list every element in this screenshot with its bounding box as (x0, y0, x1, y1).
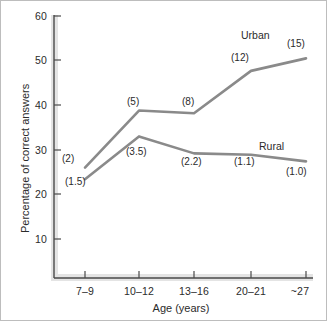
chart-plot-area (1, 1, 327, 321)
annotation-rural-4: (1.0) (286, 166, 307, 177)
y-tick-label-60: 60 (25, 10, 47, 22)
annotation-rural-3: (1.1) (234, 156, 255, 167)
annotation-urban-2: (8) (182, 96, 194, 107)
x-tick-label-27: ~27 (279, 285, 321, 297)
annotation-urban-4: (15) (287, 38, 305, 49)
annotation-urban-0: (2) (62, 153, 74, 164)
series-label-urban: Urban (241, 29, 270, 41)
annotation-rural-1: (3.5) (126, 146, 147, 157)
x-tick-label-20-21: 20–21 (223, 285, 279, 297)
annotation-urban-3: (12) (231, 52, 249, 63)
x-axis-title: Age (years) (111, 302, 251, 314)
x-tick-label-7-9: 7–9 (57, 285, 113, 297)
chart-figure: 60 50 40 30 20 10 7–9 10–12 13–16 20–21 … (0, 0, 327, 321)
y-tick-label-10: 10 (25, 233, 47, 245)
annotation-rural-0: (1.5) (65, 176, 86, 187)
y-axis-title: Percentage of correct answers (19, 84, 31, 233)
y-tick-label-50: 50 (25, 54, 47, 66)
x-tick-label-13-16: 13–16 (166, 285, 222, 297)
x-tick-label-10-12: 10–12 (111, 285, 167, 297)
series-label-rural: Rural (259, 140, 284, 152)
annotation-urban-1: (5) (127, 96, 139, 107)
annotation-rural-2: (2.2) (181, 156, 202, 167)
